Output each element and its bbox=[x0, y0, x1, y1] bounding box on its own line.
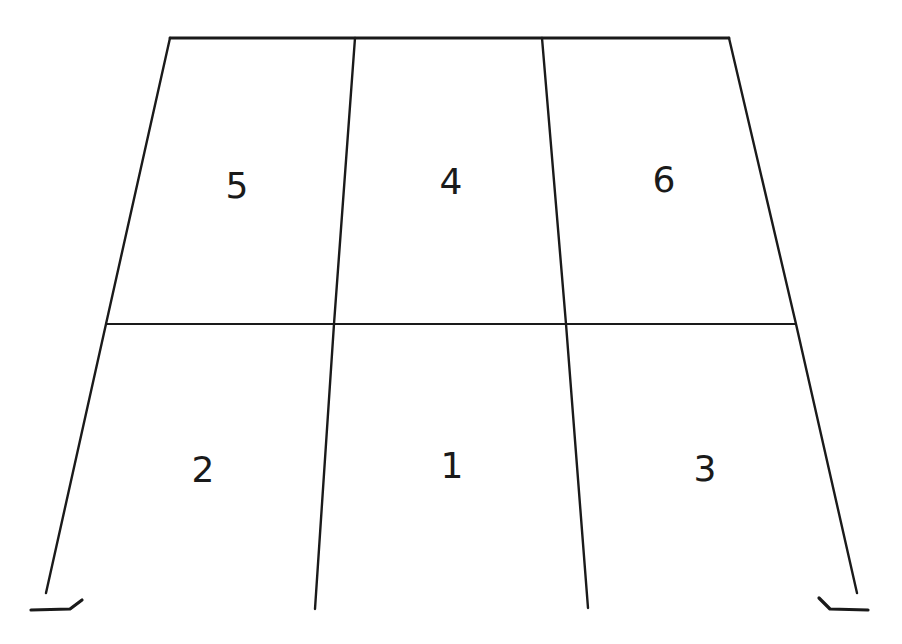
frame-diagram: 5 4 6 2 1 3 bbox=[0, 0, 902, 644]
left-support-icon bbox=[31, 600, 82, 610]
column-right-outer bbox=[729, 38, 857, 593]
panel-label-6: 6 bbox=[653, 159, 676, 200]
frame-members bbox=[46, 38, 857, 609]
column-left-outer bbox=[46, 38, 170, 593]
panel-label-5: 5 bbox=[226, 165, 249, 206]
right-support-icon bbox=[819, 598, 868, 610]
panel-label-3: 3 bbox=[694, 448, 717, 489]
panel-label-4: 4 bbox=[440, 161, 463, 202]
supports bbox=[31, 598, 868, 610]
panel-label-1: 1 bbox=[441, 445, 464, 486]
panel-label-2: 2 bbox=[192, 449, 215, 490]
